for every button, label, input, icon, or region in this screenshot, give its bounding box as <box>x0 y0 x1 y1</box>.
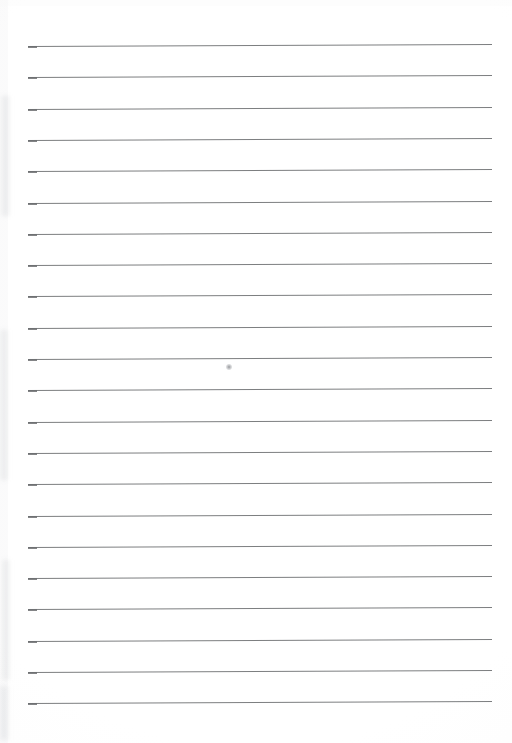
ruled-line <box>28 232 492 235</box>
ruled-line <box>28 326 492 329</box>
ruled-lines-layer <box>0 0 512 743</box>
ruled-line <box>28 294 492 297</box>
ruled-line <box>28 169 492 172</box>
ruled-line <box>28 545 492 548</box>
ruled-line <box>28 263 492 266</box>
ruled-line <box>28 576 492 579</box>
ruled-line <box>28 513 492 516</box>
ruled-line <box>28 107 492 110</box>
ruled-line <box>28 639 492 642</box>
ruled-line <box>28 75 492 78</box>
ruled-line <box>28 701 492 704</box>
ruled-line <box>28 388 492 391</box>
ruled-line <box>28 670 492 673</box>
ruled-line <box>28 44 492 47</box>
pencil-dot-mark <box>226 364 232 370</box>
ruled-line <box>28 200 492 203</box>
ruled-line <box>28 482 492 485</box>
ruled-line <box>28 420 492 423</box>
scanned-page <box>0 0 512 743</box>
ruled-line <box>28 607 492 610</box>
ruled-line <box>28 451 492 454</box>
ruled-line <box>28 138 492 141</box>
ruled-line <box>28 357 492 360</box>
